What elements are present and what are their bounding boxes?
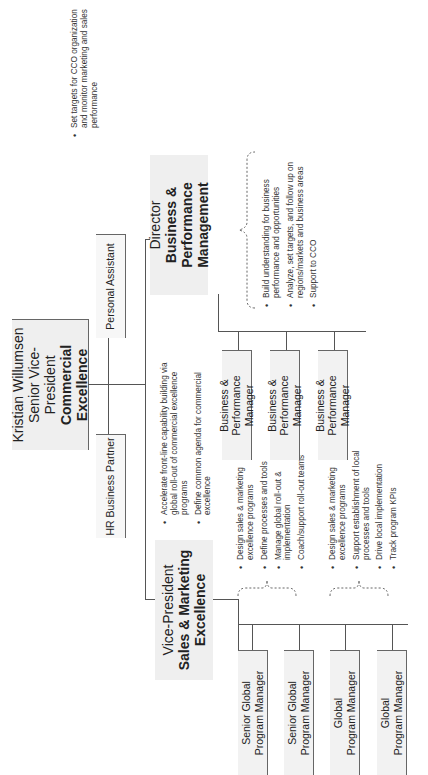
connector [299, 624, 300, 650]
vp-bullet: Accelerate front-line capability buildin… [160, 355, 190, 515]
connector [218, 294, 219, 332]
connector [286, 331, 287, 350]
connector [238, 624, 408, 625]
director-box: Director Business & Performance Manageme… [150, 155, 208, 295]
vp-bullet: Define common agenda for commercial exce… [194, 355, 214, 515]
box-line-2: Manager [291, 385, 304, 426]
connector [334, 331, 335, 350]
connector [238, 331, 239, 350]
pa-label: Personal Assistant [104, 243, 117, 329]
director-bullet: Analyze, set targets, and follow up on r… [286, 148, 306, 298]
box-line-2: Manager [243, 385, 256, 426]
ceo-unit: Commercial Excellence [58, 320, 90, 450]
brace-icon [236, 570, 298, 600]
global-pm-bullet: Support establishment of local processes… [352, 435, 372, 560]
global-pm-bullet: Drive local implementation [375, 435, 385, 560]
business-performance-manager-box: Business & Performance Manager [222, 350, 252, 460]
director-bullet: Support to CCO [309, 148, 319, 298]
box-line-2: Program Manager [253, 671, 266, 756]
box-line-2: Program Manager [299, 671, 312, 756]
director-bullet: Build understanding for business perform… [262, 148, 282, 298]
box-line-1: Business & Performance [218, 351, 243, 460]
global-program-manager-box: Global Program Manager [377, 650, 407, 775]
box-line-1: Business & Performance [314, 351, 339, 460]
box-line-2: Program Manager [345, 671, 358, 756]
ceo-bullets: Set targets for CCO organization and mon… [70, 8, 104, 138]
box-line-1: Senior Global [240, 681, 253, 745]
director-unit-2: Management [195, 182, 211, 268]
hr-label: HR Business Partner [104, 437, 117, 535]
box-line-1: Global [379, 698, 392, 728]
connector [88, 384, 145, 385]
global-pm-bullet: Track program KPIs [389, 435, 399, 560]
ceo-bullet: Set targets for CCO organization and mon… [70, 8, 100, 128]
connector [392, 624, 393, 650]
box-line-1: Business & Performance [266, 351, 291, 460]
vp-box: Vice-President Sales & Marketing Excelle… [155, 540, 213, 680]
brace-icon [328, 570, 390, 600]
vp-bullets: Accelerate front-line capability buildin… [160, 355, 217, 525]
director-bullets: Build understanding for business perform… [262, 148, 323, 308]
personal-assistant-box: Personal Assistant [96, 234, 126, 338]
connector [213, 599, 238, 600]
connector [252, 624, 253, 650]
brace-icon [235, 150, 260, 310]
ceo-title: Senior Vice-President [26, 320, 58, 450]
senior-global-program-manager-box: Senior Global Program Manager [284, 650, 314, 775]
director-unit-1: Business & Performance [163, 155, 195, 295]
ceo-box: Kristian Willumsen Senior Vice-President… [12, 319, 89, 450]
global-program-manager-box: Global Program Manager [330, 650, 360, 775]
vp-unit-1: Sales & Marketing [176, 550, 192, 671]
box-line-2: Program Manager [392, 671, 405, 756]
business-performance-manager-box: Business & Performance Manager [318, 350, 348, 460]
vp-unit-2: Excellence [192, 574, 208, 646]
box-line-1: Senior Global [286, 681, 299, 745]
ceo-name: Kristian Willumsen [10, 327, 26, 442]
vp-title: Vice-President [160, 565, 176, 656]
connector [218, 331, 366, 332]
hr-business-partner-box: HR Business Partner [96, 434, 126, 538]
senior-global-program-manager-box: Senior Global Program Manager [238, 650, 268, 775]
connector [345, 624, 346, 650]
business-performance-manager-box: Business & Performance Manager [270, 350, 300, 460]
box-line-1: Global [332, 698, 345, 728]
connector [145, 239, 146, 600]
director-title: Director [147, 201, 163, 250]
box-line-2: Manager [339, 385, 352, 426]
